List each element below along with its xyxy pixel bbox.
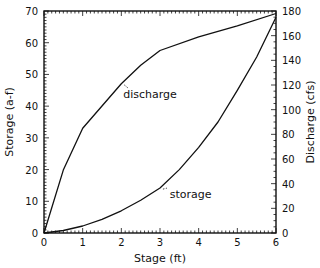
axis-ticks [44, 11, 276, 233]
plot-area [44, 11, 276, 233]
right-y-tick-label: 140 [282, 55, 301, 66]
left-y-tick-label: 60 [25, 38, 38, 49]
right-y-tick-label: 120 [282, 80, 301, 91]
storage-annotation-label: storage [170, 188, 212, 201]
right-y-tick-label: 80 [282, 129, 295, 140]
left-y-tick-label: 10 [25, 196, 38, 207]
left-y-tick-label: 0 [32, 228, 38, 239]
stage-storage-discharge-chart: 0123456010203040506070020406080100120140… [0, 0, 320, 268]
left-y-tick-label: 40 [25, 101, 38, 112]
left-y-tick-label: 70 [25, 6, 38, 17]
left-y-tick-label: 30 [25, 133, 38, 144]
right-y-tick-label: 180 [282, 6, 301, 17]
tick-labels: 0123456010203040506070020406080100120140… [25, 6, 301, 248]
right-y-tick-label: 0 [282, 228, 288, 239]
x-tick-label: 0 [41, 237, 47, 248]
x-axis-label: Stage (ft) [134, 252, 186, 265]
left-y-tick-label: 50 [25, 69, 38, 80]
annotations: dischargestorage [123, 85, 211, 201]
left-y-axis-label: Storage (a-f) [3, 87, 16, 157]
discharge-curve [44, 14, 276, 234]
x-tick-label: 3 [157, 237, 163, 248]
x-tick-label: 1 [79, 237, 85, 248]
x-tick-label: 2 [118, 237, 124, 248]
data-series [44, 14, 276, 234]
right-y-tick-label: 20 [282, 203, 295, 214]
right-y-tick-label: 100 [282, 105, 301, 116]
right-y-tick-label: 160 [282, 31, 301, 42]
right-y-axis-label: Discharge (cfs) [304, 81, 317, 164]
right-y-tick-label: 40 [282, 179, 295, 190]
storage-curve [44, 17, 276, 233]
x-tick-label: 4 [195, 237, 201, 248]
discharge-annotation-label: discharge [123, 88, 177, 101]
plot-frame [44, 11, 276, 233]
left-y-tick-label: 20 [25, 165, 38, 176]
x-tick-label: 5 [234, 237, 240, 248]
storage-leader-line [163, 188, 167, 189]
x-tick-label: 6 [273, 237, 279, 248]
right-y-tick-label: 60 [282, 154, 295, 165]
